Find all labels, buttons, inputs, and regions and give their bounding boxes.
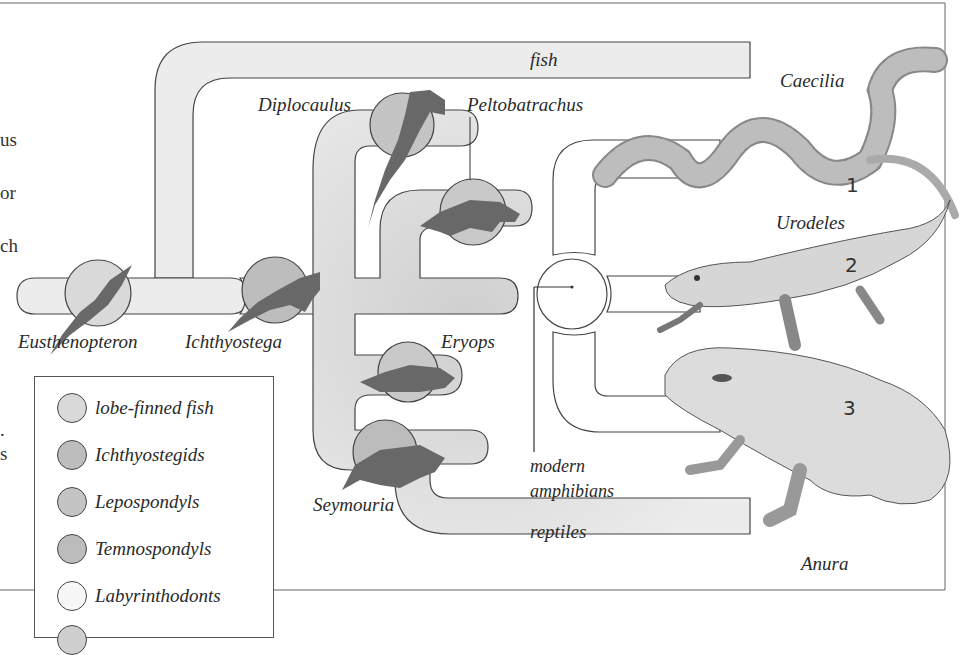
reptiles-branch-label: reptiles <box>530 521 586 542</box>
taxon-label-seymouria: Seymouria <box>313 494 394 515</box>
taxon-label-peltobatrachus: Peltobatrachus <box>466 94 583 115</box>
number-caecilia: 1 <box>846 173 859 197</box>
number-urodeles: 2 <box>845 253 858 277</box>
legend-item: Temnospondyls <box>57 534 211 564</box>
taxon-label-urodeles: Urodeles <box>776 212 845 233</box>
fish-branch-label: fish <box>530 49 557 70</box>
legend: lobe-finned fish Ichthyostegids Lepospon… <box>34 376 274 638</box>
taxon-label-anura: Anura <box>799 553 849 574</box>
legend-item: lobe-finned fish <box>57 393 214 423</box>
legend-swatch-icon <box>57 625 87 655</box>
taxon-label-caecilia: Caecilia <box>780 70 844 91</box>
taxon-label-eryops: Eryops <box>440 331 495 352</box>
margin-text: or <box>0 182 17 203</box>
modern-amphibians-label-line2: amphibians <box>530 481 614 501</box>
legend-label: Temnospondyls <box>95 538 211 560</box>
taxon-label-eusthenopteron: Eusthenopteron <box>17 331 138 352</box>
number-anura: 3 <box>843 396 856 420</box>
legend-swatch-icon <box>57 534 87 564</box>
taxon-label-diplocaulus: Diplocaulus <box>257 94 351 115</box>
legend-label: Lepospondyls <box>95 491 200 513</box>
margin-text: ch <box>0 235 18 256</box>
legend-item: Ichthyostegids <box>57 440 205 470</box>
margin-text: us <box>0 129 17 150</box>
margin-text: s <box>0 443 7 464</box>
taxon-label-ichthyostega: Ichthyostega <box>184 331 282 352</box>
pointer-dot <box>571 286 574 289</box>
modern-amphibians-label-line1: modern <box>530 456 585 476</box>
legend-swatch-icon <box>57 393 87 423</box>
legend-swatch-icon <box>57 487 87 517</box>
ichthyostega-node <box>228 257 320 332</box>
legend-item: Lepospondyls <box>57 487 200 517</box>
margin-text: . <box>0 419 5 440</box>
legend-label: Labyrinthodonts <box>95 585 221 607</box>
legend-label: Ichthyostegids <box>95 444 205 466</box>
legend-item: Labyrinthodonts <box>57 581 221 611</box>
legend-item-partial <box>57 625 95 655</box>
anura-illustration <box>665 348 950 520</box>
legend-swatch-icon <box>57 440 87 470</box>
legend-label: lobe-finned fish <box>95 397 214 419</box>
legend-swatch-icon <box>57 581 87 611</box>
